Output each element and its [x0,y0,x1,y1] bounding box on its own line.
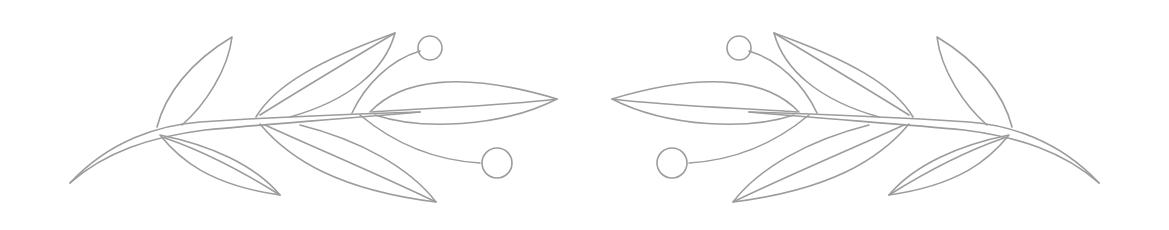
olive-branch-illustration [0,0,1169,230]
right-olive-branch [612,33,1099,202]
left-olive-branch [70,33,557,202]
laurel-divider [0,0,1169,230]
